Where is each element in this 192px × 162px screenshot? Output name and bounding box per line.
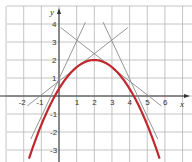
tangent-1-line	[31, 22, 86, 139]
axes	[0, 8, 190, 162]
y-tick-label: 1	[52, 74, 57, 83]
x-axis-arrow-icon	[184, 94, 190, 98]
x-tick-label: 2	[92, 98, 97, 107]
x-axis-label: x	[179, 99, 184, 109]
x-tick-label: 3	[110, 98, 115, 107]
tangent-4-line	[103, 22, 158, 139]
y-tick-label: 3	[52, 38, 57, 47]
y-tick-label: 2	[52, 56, 57, 65]
x-tick-label: 4	[128, 98, 133, 107]
y-axis-arrow-icon	[57, 8, 61, 14]
y-axis-label: y	[49, 7, 54, 17]
x-tick-label: 5	[145, 98, 150, 107]
grid-lines	[6, 6, 192, 162]
parabola-chart: -2-11234564321-1-2-3 x y	[0, 0, 192, 162]
x-tick-label: 1	[75, 98, 80, 107]
y-tick-label: 4	[52, 20, 57, 29]
x-tick-label: 6	[163, 98, 168, 107]
y-tick-label: -2	[50, 128, 58, 137]
x-tick-label: -2	[19, 98, 27, 107]
x-tick-label: -1	[36, 98, 44, 107]
y-tick-label: -1	[50, 110, 58, 119]
y-tick-label: -3	[50, 146, 58, 155]
